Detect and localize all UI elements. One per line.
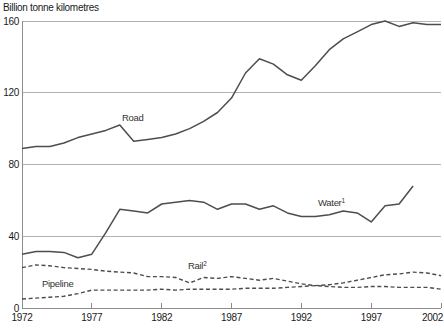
x-tick-label-2002: 2002 [422, 312, 444, 323]
y-tick-label-160: 160 [3, 16, 20, 27]
rail-series-label: Rail2 [188, 260, 207, 271]
rail-footnote-superscript: 2 [203, 260, 207, 267]
road-series-label: Road [122, 112, 144, 123]
water-series-label: Water1 [318, 197, 345, 208]
chart-canvas: Billion tonne kilometres 197219771982198… [0, 0, 444, 328]
y-tick-label-120: 120 [3, 87, 20, 98]
y-tick-label-0: 0 [14, 303, 20, 314]
x-tick-label-1972: 1972 [11, 312, 33, 323]
plot-area: 197219771982198719921997200204080120160R… [3, 16, 444, 324]
x-tick-label-1982: 1982 [151, 312, 173, 323]
water-series-line [22, 186, 413, 258]
y-tick-label-40: 40 [8, 231, 19, 242]
freight-line-chart-figure: Billion tonne kilometres 197219771982198… [0, 0, 444, 328]
x-tick-label-1997: 1997 [361, 312, 383, 323]
pipeline-series-label: Pipeline [42, 278, 73, 289]
road-series-line [22, 21, 441, 148]
water-footnote-superscript: 1 [341, 197, 345, 204]
pipeline-series-line [22, 286, 441, 299]
rail-series-line [22, 265, 441, 286]
y-tick-label-80: 80 [8, 159, 19, 170]
x-tick-label-1992: 1992 [291, 312, 313, 323]
chart-title: Billion tonne kilometres [3, 2, 99, 13]
x-tick-label-1977: 1977 [81, 312, 103, 323]
x-tick-label-1987: 1987 [221, 312, 243, 323]
